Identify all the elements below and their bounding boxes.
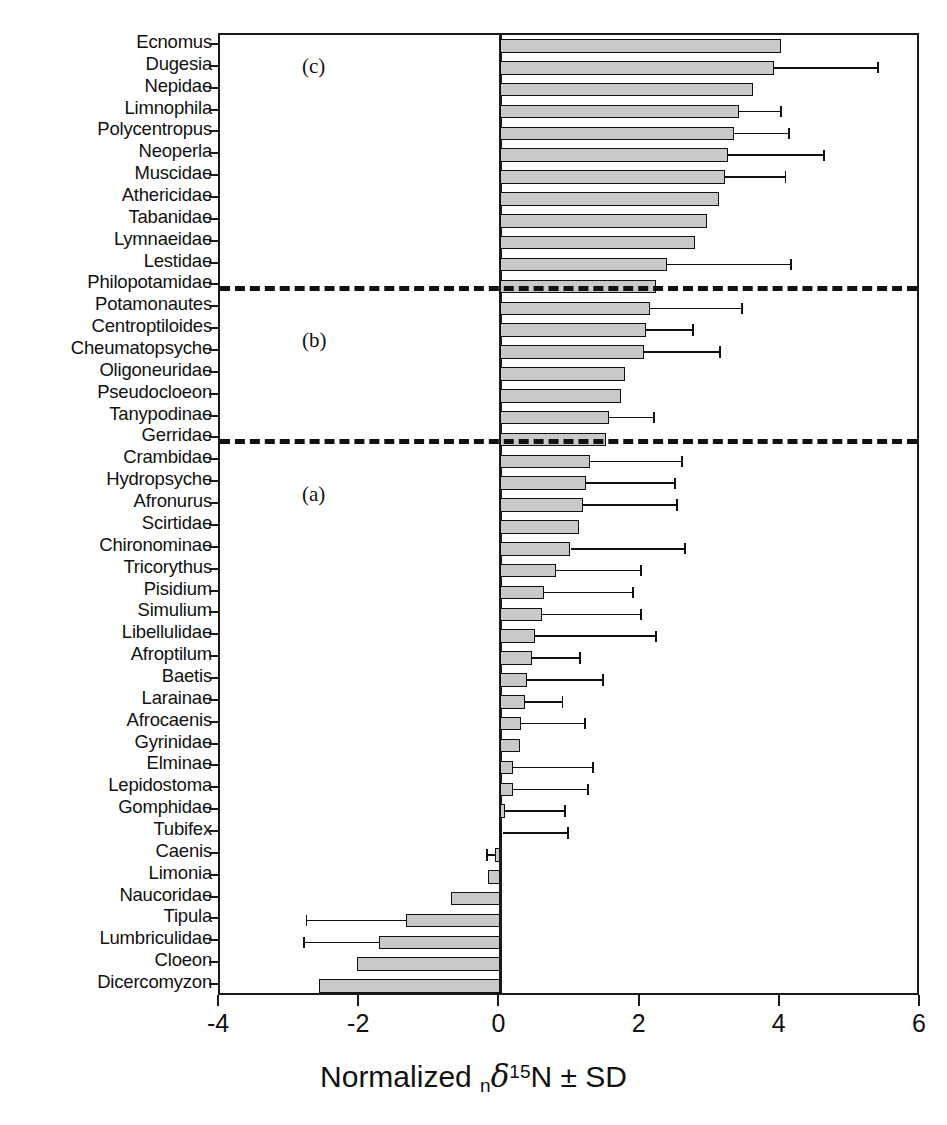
y-axis-label-elminae: Elminae xyxy=(6,754,212,772)
bar-scirtidae xyxy=(500,520,579,534)
bar-limnophila xyxy=(500,105,738,119)
bar-tricorythus xyxy=(500,564,556,578)
bar-caenis xyxy=(495,848,501,862)
y-axis-label-tabanidae: Tabanidae xyxy=(6,208,212,226)
y-axis-label-libellulidae: Libellulidae xyxy=(6,623,212,641)
y-axis-label-cheumatopsyche: Cheumatopsyche xyxy=(6,339,212,357)
error-bar-lestidae xyxy=(667,264,792,266)
y-tick-caenis xyxy=(209,852,218,854)
error-cap-larainae xyxy=(562,696,564,707)
x-tick-label-2: 2 xyxy=(632,1009,646,1038)
y-tick-gerridae xyxy=(209,436,218,438)
y-axis-label-larainae: Larainae xyxy=(6,689,212,707)
error-cap-simulium xyxy=(640,609,642,620)
bar-hydropsyche xyxy=(500,476,586,490)
y-axis-label-muscidae: Muscidae xyxy=(6,164,212,182)
y-axis-label-pseudocloeon: Pseudocloeon xyxy=(6,383,212,401)
y-tick-limnophila xyxy=(209,109,218,111)
bar-crambidae xyxy=(500,455,590,469)
bar-lepidostoma xyxy=(500,783,513,797)
x-tick--4 xyxy=(217,995,219,1006)
bar-dicercomyzon xyxy=(319,979,501,993)
error-cap-potamonautes xyxy=(741,303,743,314)
error-bar-limnophila xyxy=(739,111,782,113)
error-cap-lumbriculidae xyxy=(303,937,305,948)
y-tick-centroptiloides xyxy=(209,327,218,329)
bar-nepidae xyxy=(500,83,752,97)
error-cap-elminae xyxy=(592,762,594,773)
error-bar-pisidium xyxy=(544,592,634,594)
error-cap-libellulidae xyxy=(655,631,657,642)
error-bar-baetis xyxy=(527,679,604,681)
bar-gyrinidae xyxy=(500,739,520,753)
x-tick-label-0: 0 xyxy=(491,1009,505,1038)
bar-afrocaenis xyxy=(500,717,521,731)
bar-cheumatopsyche xyxy=(500,345,644,359)
y-tick-hydropsyche xyxy=(209,480,218,482)
error-bar-tipula xyxy=(306,920,407,922)
error-cap-gomphidae xyxy=(564,805,566,816)
y-axis-label-gomphidae: Gomphidae xyxy=(6,798,212,816)
y-tick-libellulidae xyxy=(209,633,218,635)
y-axis-label-centroptiloides: Centroptiloides xyxy=(6,317,212,335)
error-cap-pisidium xyxy=(632,587,634,598)
y-axis-label-afroptilum: Afroptilum xyxy=(6,645,212,663)
error-bar-polycentropus xyxy=(734,133,790,135)
y-axis-labels: EcnomusDugesiaNepidaeLimnophilaPolycentr… xyxy=(0,0,212,1125)
x-axis-title-superscript: 15 xyxy=(509,1061,530,1082)
bar-centroptiloides xyxy=(500,323,646,337)
y-axis-label-pisidium: Pisidium xyxy=(6,580,212,598)
y-axis-label-caenis: Caenis xyxy=(6,842,212,860)
y-axis-label-gerridae: Gerridae xyxy=(6,426,212,444)
error-cap-neoperla xyxy=(823,150,825,161)
error-cap-caenis xyxy=(486,849,488,860)
error-bar-neoperla xyxy=(728,154,825,156)
bar-potamonautes xyxy=(500,302,650,316)
panel-label-c: (c) xyxy=(302,54,325,79)
bar-lumbriculidae xyxy=(379,936,500,950)
error-cap-baetis xyxy=(602,674,604,685)
bar-muscidae xyxy=(500,170,724,184)
bar-dugesia xyxy=(500,61,773,75)
x-tick-label--2: -2 xyxy=(347,1009,369,1038)
y-tick-cheumatopsyche xyxy=(209,349,218,351)
bar-tabanidae xyxy=(500,214,707,228)
y-axis-label-naucoridae: Naucoridae xyxy=(6,886,212,904)
y-axis-label-tipula: Tipula xyxy=(6,907,212,925)
y-axis-label-limnophila: Limnophila xyxy=(6,99,212,117)
plot-area: (c)(b)(a) xyxy=(218,33,919,995)
panel-label-b: (b) xyxy=(302,328,327,353)
bar-simulium xyxy=(500,608,542,622)
group-separator-2 xyxy=(220,439,917,444)
y-axis-label-gyrinidae: Gyrinidae xyxy=(6,733,212,751)
y-tick-crambidae xyxy=(209,458,218,460)
y-axis-label-limonia: Limonia xyxy=(6,864,212,882)
y-tick-ecnomus xyxy=(209,43,218,45)
y-axis-label-afronurus: Afronurus xyxy=(6,492,212,510)
y-tick-muscidae xyxy=(209,174,218,176)
y-axis-label-simulium: Simulium xyxy=(6,601,212,619)
y-tick-neoperla xyxy=(209,152,218,154)
error-cap-tanypodinae xyxy=(653,412,655,423)
y-axis-label-hydropsyche: Hydropsyche xyxy=(6,470,212,488)
error-cap-dugesia xyxy=(877,62,879,73)
error-bar-afronurus xyxy=(583,504,678,506)
figure-root: EcnomusDugesiaNepidaeLimnophilaPolycentr… xyxy=(0,0,947,1125)
x-tick-4 xyxy=(778,995,780,1006)
error-cap-afronurus xyxy=(676,499,678,510)
x-axis-title: Normalized nδ15N ± SD xyxy=(0,1058,947,1097)
y-tick-pseudocloeon xyxy=(209,393,218,395)
error-bar-afroptilum xyxy=(532,657,581,659)
bar-larainae xyxy=(500,695,525,709)
error-bar-gomphidae xyxy=(505,810,567,812)
y-axis-label-neoperla: Neoperla xyxy=(6,142,212,160)
y-tick-lymnaeidae xyxy=(209,240,218,242)
error-cap-muscidae xyxy=(785,171,787,182)
error-bar-larainae xyxy=(525,701,564,703)
y-tick-gomphidae xyxy=(209,808,218,810)
error-bar-cheumatopsyche xyxy=(644,351,721,353)
bar-libellulidae xyxy=(500,629,535,643)
y-axis-label-polycentropus: Polycentropus xyxy=(6,120,212,138)
error-cap-afroptilum xyxy=(579,652,581,663)
bar-elminae xyxy=(500,761,513,775)
